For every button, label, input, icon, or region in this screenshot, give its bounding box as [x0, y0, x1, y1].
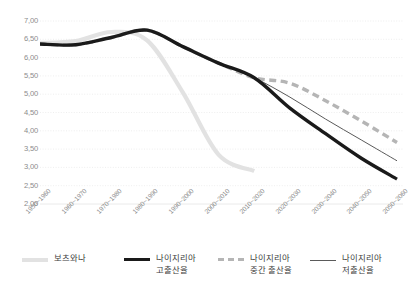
legend-item-nigeria-high[interactable]: 나이지리아고출산율 — [124, 253, 196, 276]
y-tick-label: 6,00 — [4, 54, 38, 62]
y-tick-label: 3,00 — [4, 163, 38, 171]
series-line-3 — [40, 30, 397, 161]
legend-label-line2: 저출산율 — [342, 265, 382, 277]
chart-legend: 보츠와나나이지리아고출산율나이지리아중간 출산율나이지리아저출산율 — [0, 253, 411, 305]
legend-swatch-botswana — [22, 254, 48, 266]
legend-label-botswana: 보츠와나 — [54, 253, 86, 265]
legend-label-line1: 나이지리아 — [342, 253, 382, 263]
legend-label-line1: 나이지리아 — [156, 253, 196, 263]
y-tick-label: 2,50 — [4, 182, 38, 190]
fertility-rate-line-chart: 7,006,506,005,505,004,504,003,503,002,50… — [0, 0, 411, 305]
series-lines — [40, 30, 397, 179]
y-tick-label: 3,50 — [4, 145, 38, 153]
y-tick-label: 6,50 — [4, 35, 38, 43]
legend-swatch-nigeria-high — [124, 254, 150, 266]
legend-swatch-nigeria-medium — [218, 254, 244, 266]
legend-label-line1: 나이지리아 — [250, 253, 290, 263]
y-tick-label: 5,50 — [4, 72, 38, 80]
legend-label-nigeria-low: 나이지리아저출산율 — [342, 253, 382, 276]
legend-label-nigeria-high: 나이지리아고출산율 — [156, 253, 196, 276]
legend-item-botswana[interactable]: 보츠와나 — [22, 253, 86, 266]
legend-swatch-nigeria-low — [310, 254, 336, 266]
legend-label-line2: 중간 출산율 — [250, 265, 292, 277]
y-tick-label: 7,00 — [4, 17, 38, 25]
y-tick-label: 4,00 — [4, 127, 38, 135]
legend-label-nigeria-medium: 나이지리아중간 출산율 — [250, 253, 292, 276]
y-tick-label: 4,50 — [4, 109, 38, 117]
series-line-0 — [40, 32, 254, 171]
legend-label-line2: 고출산율 — [156, 265, 196, 277]
series-line-2 — [40, 30, 397, 143]
x-axis: 1950~19601960~19701970~19801980~19901990… — [0, 206, 411, 252]
y-tick-label: 5,00 — [4, 90, 38, 98]
legend-item-nigeria-low[interactable]: 나이지리아저출산율 — [310, 253, 382, 276]
legend-item-nigeria-medium[interactable]: 나이지리아중간 출산율 — [218, 253, 292, 276]
legend-label-line1: 보츠와나 — [54, 253, 86, 263]
